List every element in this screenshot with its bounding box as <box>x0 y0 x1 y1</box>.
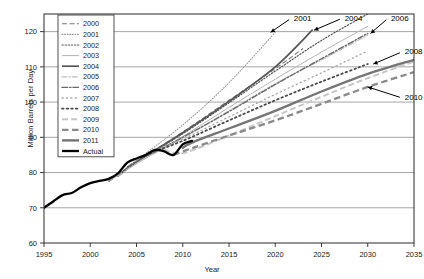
y-tick-label: 80 <box>29 168 37 177</box>
x-tick-label: 2000 <box>82 250 99 259</box>
legend-label-2010: 2010 <box>83 125 99 134</box>
legend-label-2005: 2005 <box>83 72 99 81</box>
x-tick-label: 2015 <box>221 250 238 259</box>
legend-label-2003: 2003 <box>83 51 99 60</box>
annotation-label-2004: 2004 <box>345 14 363 23</box>
x-axis-label: Year <box>0 265 424 274</box>
annotation-label-2008: 2008 <box>405 47 423 56</box>
annotation-label-2010: 2010 <box>405 93 423 102</box>
chart-figure: 6070809010011012019952000200520102015202… <box>0 0 424 279</box>
legend-label-2009: 2009 <box>83 115 99 124</box>
chart-legend: 2000200120022003200420052006200720082009… <box>58 15 114 157</box>
y-axis-label: Million Barrels per Day <box>26 49 35 169</box>
legend-label-2008: 2008 <box>83 104 99 113</box>
legend-label-2004: 2004 <box>83 62 99 71</box>
y-tick-label: 70 <box>29 204 37 213</box>
legend-label-2000: 2000 <box>83 19 99 28</box>
legend-label-2006: 2006 <box>83 83 99 92</box>
x-tick-label: 2025 <box>313 250 330 259</box>
y-tick-label: 60 <box>29 239 37 248</box>
x-tick-label: 2030 <box>359 250 376 259</box>
y-tick-label: 120 <box>24 27 37 36</box>
legend-label-2002: 2002 <box>83 41 99 50</box>
legend-label-2011: 2011 <box>83 136 98 145</box>
x-tick-label: 2020 <box>267 250 284 259</box>
annotation-label-2001: 2001 <box>294 14 312 23</box>
annotation-label-2006: 2006 <box>391 14 409 23</box>
x-tick-label: 2010 <box>174 250 191 259</box>
x-tick-label: 1995 <box>36 250 53 259</box>
legend-label-2007: 2007 <box>83 94 99 103</box>
x-tick-label: 2035 <box>406 250 423 259</box>
x-tick-label: 2005 <box>128 250 145 259</box>
legend-label-2001: 2001 <box>83 30 99 39</box>
line-chart-canvas: 6070809010011012019952000200520102015202… <box>0 0 424 279</box>
legend-label-actual: Actual <box>83 147 103 156</box>
